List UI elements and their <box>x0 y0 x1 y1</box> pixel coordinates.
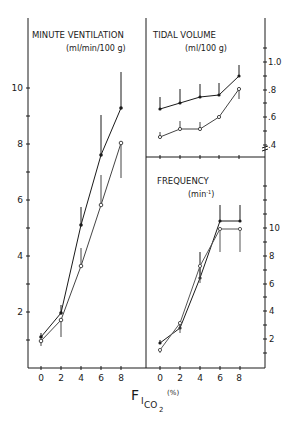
svg-text:CO: CO <box>144 400 157 410</box>
svg-text:F: F <box>131 387 139 403</box>
figure: MINUTE VENTILATION (ml/min/100 g) TIDAL … <box>0 0 293 425</box>
svg-text:8: 8 <box>17 139 23 149</box>
svg-text:4: 4 <box>78 373 84 383</box>
svg-text:0: 0 <box>38 373 44 383</box>
svg-text:2: 2 <box>58 373 64 383</box>
svg-text:4: 4 <box>197 373 203 383</box>
svg-text:2: 2 <box>269 334 274 344</box>
svg-text:8: 8 <box>118 373 124 383</box>
mv-series-filled <box>39 72 123 339</box>
f-series-open <box>158 227 241 353</box>
f-unit: (min-1) <box>188 189 214 199</box>
mv-y-tick-labels: 10 8 6 4 2 <box>12 83 24 317</box>
svg-text:4: 4 <box>17 251 23 261</box>
svg-text:10: 10 <box>12 83 24 93</box>
svg-text:8: 8 <box>269 251 274 261</box>
svg-text:.6: .6 <box>268 112 276 122</box>
svg-text:6: 6 <box>269 279 274 289</box>
tv-y-tick-labels: 1.0 .8 .6 .4 <box>268 57 282 150</box>
f-y-tick-labels: 10 8 6 4 2 <box>269 223 280 344</box>
svg-text:6: 6 <box>98 373 104 383</box>
svg-text:10: 10 <box>269 223 280 233</box>
svg-text:6: 6 <box>17 195 23 205</box>
svg-text:.4: .4 <box>268 140 276 150</box>
svg-text:6: 6 <box>217 373 223 383</box>
svg-text:2: 2 <box>159 406 163 414</box>
svg-text:8: 8 <box>236 373 242 383</box>
svg-text:2: 2 <box>177 373 183 383</box>
svg-text:0: 0 <box>157 373 163 383</box>
tv-unit: (ml/100 g) <box>185 44 227 53</box>
f-x-tick-labels: 0 2 4 6 8 <box>157 373 242 383</box>
mv-series-open <box>39 141 123 346</box>
svg-text:4: 4 <box>269 306 274 316</box>
f-title: FREQUENCY <box>157 176 210 186</box>
svg-text:(%): (%) <box>167 389 179 397</box>
mv-title: MINUTE VENTILATION <box>32 30 124 40</box>
x-axis-title: F I CO 2 (%) <box>131 387 179 414</box>
mv-unit: (ml/min/100 g) <box>66 44 126 53</box>
svg-text:1.0: 1.0 <box>268 57 282 67</box>
svg-text:.8: .8 <box>268 85 276 95</box>
mv-x-tick-labels: 0 2 4 6 8 <box>38 373 124 383</box>
minute-ventilation-panel <box>26 18 146 370</box>
tv-title: TIDAL VOLUME <box>152 30 216 40</box>
svg-text:2: 2 <box>17 307 23 317</box>
